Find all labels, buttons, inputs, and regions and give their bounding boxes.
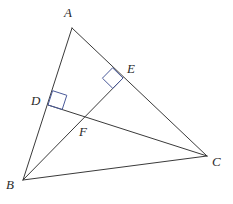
vertex-label-a: A — [64, 6, 72, 19]
segment-AC — [72, 28, 207, 156]
vertex-label-c: C — [212, 155, 221, 168]
vertex-label-d: D — [31, 94, 40, 107]
triangle-and-cevians — [23, 28, 207, 180]
vertex-label-e: E — [127, 62, 135, 75]
vertex-label-f: F — [79, 125, 87, 138]
right-angle-marks — [48, 68, 123, 110]
right-angle-icon-at-E — [102, 68, 123, 89]
geometry-figure: A B C D E F — [0, 0, 233, 204]
vertex-label-b: B — [6, 178, 14, 191]
segment-BC — [23, 156, 207, 180]
